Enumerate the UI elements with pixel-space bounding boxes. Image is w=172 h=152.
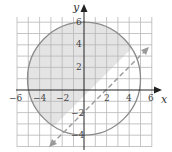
graph: x y −6 −4 −2 2 4 6 6 4 2 −2 −4 (0, 0, 172, 152)
x-tick: 6 (148, 93, 154, 103)
y-tick: 2 (76, 62, 82, 72)
y-tick: 4 (76, 39, 82, 49)
y-axis-label: y (72, 1, 80, 14)
x-tick: 4 (126, 93, 132, 103)
y-tick: 6 (76, 17, 82, 27)
y-axis-arrow-icon (81, 4, 88, 12)
y-tick: −2 (71, 108, 84, 118)
x-tick: −6 (9, 93, 23, 103)
y-tick: −4 (71, 130, 85, 140)
x-tick: −2 (56, 93, 69, 103)
x-axis-label: x (161, 93, 168, 106)
x-tick: −4 (33, 93, 47, 103)
x-tick: 2 (104, 93, 110, 103)
